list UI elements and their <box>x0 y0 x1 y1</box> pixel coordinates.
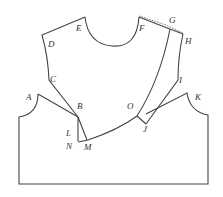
label-i: I <box>178 75 183 85</box>
label-l: L <box>65 128 71 138</box>
line-g-o <box>137 29 170 116</box>
shoulder-line <box>139 17 183 34</box>
label-h: H <box>184 36 192 46</box>
line-h-i-j <box>146 34 183 124</box>
label-b: B <box>77 101 83 111</box>
line-a-b <box>38 94 78 117</box>
label-c: C <box>50 74 57 84</box>
line-o-j <box>137 116 146 124</box>
neckline-curve <box>85 17 139 46</box>
label-d: D <box>47 39 55 49</box>
label-k: K <box>194 92 202 102</box>
label-f: F <box>138 23 145 33</box>
arc-m-o <box>88 116 137 140</box>
label-g: G <box>169 15 176 25</box>
line-b-m <box>78 117 87 140</box>
label-o: O <box>127 101 134 111</box>
lower-outline <box>19 93 208 184</box>
label-e: E <box>75 23 82 33</box>
shoulder-dashed <box>139 16 183 33</box>
pattern-diagram: A B C D E F G H I J K L M N O <box>0 0 223 197</box>
label-j: J <box>143 124 148 134</box>
label-n: N <box>65 141 73 151</box>
label-m: M <box>83 142 92 152</box>
label-a: A <box>25 92 32 102</box>
